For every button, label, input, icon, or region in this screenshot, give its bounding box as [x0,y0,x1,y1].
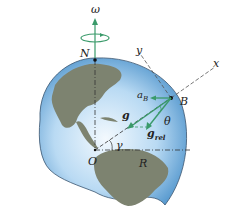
relative-gravity-label: grel [147,128,166,141]
x-axis-label: x [213,58,219,69]
radius-label: R [139,158,147,169]
acceleration-b-subscript: B [143,95,148,103]
acceleration-b-label: aB [137,90,148,103]
point-b-label: B [180,96,188,107]
earth-diagram: ω N y x aB B g θ grel O γ R [0,0,233,224]
origin-label: O [88,156,97,167]
earth-globe-graphic [0,0,233,224]
omega-label: ω [91,4,100,15]
north-label: N [80,48,90,59]
y-axis-label: y [136,45,142,56]
north-pole-point [93,58,97,62]
origin-point [94,149,96,151]
theta-label: θ [164,116,171,127]
gamma-label: γ [116,140,123,151]
relative-gravity-base: g [147,127,155,140]
relative-gravity-subscript: rel [155,133,166,142]
gravity-label: g [122,110,130,121]
x-axis-line [171,67,215,98]
